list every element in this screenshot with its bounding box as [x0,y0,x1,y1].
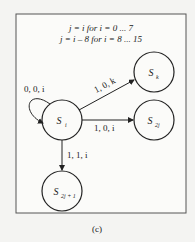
svg-text:S: S [54,186,59,197]
svg-text:S: S [57,115,62,126]
edge-to-s2j-label: 1, 0, i [94,123,115,133]
edge-self-label: 0, 0, i [24,84,45,94]
svg-text:k: k [156,74,159,80]
header-line-2: j = i – 8 for i = 8 ... 15 [59,34,142,44]
svg-text:S: S [148,115,153,126]
svg-text:2j + 1: 2j + 1 [61,193,76,199]
svg-text:S: S [149,67,154,78]
state-diagram: j = i for i = 0 ... 7 j = i – 8 for i = … [0,0,195,242]
edge-to-s2j1-label: 1, 1, i [67,150,88,160]
header-line-1: j = i for i = 0 ... 7 [68,23,133,33]
figure-caption: (c) [92,224,102,234]
svg-text:2j: 2j [155,122,160,128]
